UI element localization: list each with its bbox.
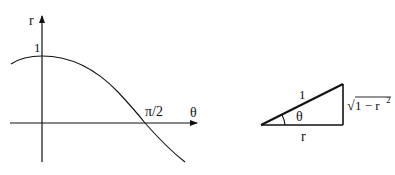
r-axis-label: r [29,13,34,28]
cosine-plot: r 1 π/2 θ [10,13,197,162]
y-tick-label-one: 1 [34,40,41,55]
angle-arc [282,115,285,125]
radical-sign: √ [347,98,355,113]
exponent: 2 [386,95,391,105]
right-triangle: 1 θ r √ 1 − r 2 [261,84,391,144]
hypotenuse-label: 1 [299,87,306,102]
radicand: 1 − r [355,98,380,113]
diagram-canvas: r 1 π/2 θ 1 θ r √ 1 − r 2 [0,0,395,175]
base-label: r [301,129,306,144]
x-tick-label-pi-over-2: π/2 [145,104,163,119]
theta-axis-label: θ [190,105,197,120]
height-label: √ 1 − r 2 [347,95,391,113]
angle-label: θ [296,109,303,124]
